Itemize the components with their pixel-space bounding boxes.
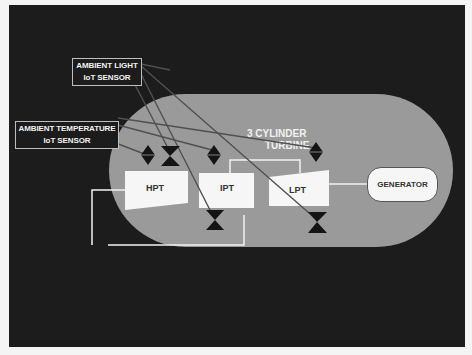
bowtie-top-1 — [161, 146, 180, 156]
ambient-light-sensor-box: AMBIENT LIGHT IoT SENSOR — [72, 58, 142, 86]
turbine-label-ipt: IPT — [220, 183, 234, 193]
generator-box: GENERATOR — [367, 167, 438, 202]
bowtie-bottom-1 — [161, 156, 180, 166]
temperature-sensor-line-1: AMBIENT TEMPERATURE — [16, 123, 118, 135]
light-sensor-line-2: IoT SENSOR — [73, 72, 141, 84]
generator-label: GENERATOR — [377, 180, 427, 189]
ambient-temperature-sensor-box: AMBIENT TEMPERATURE IoT SENSOR — [15, 121, 119, 149]
turbine-label-lpt: LPT — [289, 185, 306, 195]
temperature-sensor-line-2: IoT SENSOR — [16, 135, 118, 147]
light-sensor-line-1: AMBIENT LIGHT — [73, 60, 141, 72]
turbine-label-hpt: HPT — [146, 183, 164, 193]
